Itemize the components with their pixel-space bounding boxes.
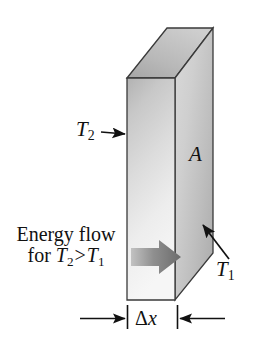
energy-flow-greater-than: >	[74, 244, 87, 266]
energy-flow-t2: T	[56, 244, 67, 266]
energy-flow-line1: Energy flow	[6, 224, 126, 245]
thermal-conduction-diagram: T2 A T1 Δx Energy flow for T2>T1	[0, 0, 258, 343]
label-t1: T1	[216, 258, 235, 283]
energy-flow-t1-subscript: 1	[98, 254, 105, 269]
label-t1-symbol: T	[216, 257, 228, 281]
energy-flow-t1: T	[87, 244, 98, 266]
label-thickness: Δx	[135, 308, 157, 329]
slab-illustration	[0, 0, 258, 343]
energy-flow-t2-subscript: 2	[67, 254, 74, 269]
label-t2-symbol: T	[76, 117, 88, 141]
label-t2: T2	[76, 118, 95, 143]
label-thickness-variable: x	[148, 307, 157, 329]
energy-flow-caption: Energy flow for T2>T1	[6, 224, 126, 269]
label-area: A	[189, 143, 202, 165]
energy-flow-line2: for T2>T1	[6, 245, 126, 269]
label-thickness-delta: Δ	[135, 307, 148, 329]
t2-pointer-arrow-icon	[101, 132, 125, 134]
energy-flow-prefix: for	[27, 244, 55, 266]
label-t1-subscript: 1	[228, 268, 235, 283]
label-t2-subscript: 2	[88, 128, 95, 143]
